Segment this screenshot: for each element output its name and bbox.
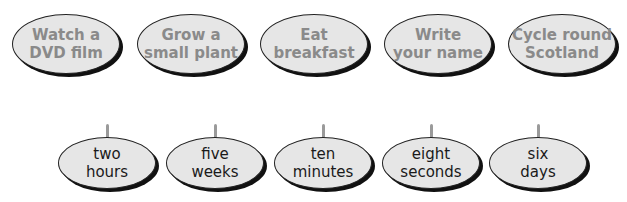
connector-stem[interactable] (430, 124, 433, 138)
activity-label: breakfast (273, 44, 354, 62)
connector-stem[interactable] (214, 124, 217, 138)
activity-oval-watch-dvd[interactable]: Watch a DVD film (12, 14, 120, 74)
duration-label: two (93, 145, 120, 163)
duration-label: seconds (400, 163, 461, 181)
duration-label: six (528, 145, 549, 163)
activity-label: Write (415, 26, 461, 44)
duration-label: weeks (191, 163, 238, 181)
activity-label: Grow a (161, 26, 220, 44)
activity-oval-eat-breakfast[interactable]: Eat breakfast (260, 14, 368, 74)
activity-oval-cycle-scotland[interactable]: Cycle round Scotland (508, 14, 616, 74)
activity-label: Cycle round (512, 26, 612, 44)
duration-label: days (520, 163, 555, 181)
activity-oval-write-name[interactable]: Write your name (384, 14, 492, 74)
connector-stem[interactable] (106, 124, 109, 138)
activity-label: Scotland (525, 44, 599, 62)
duration-label: eight (412, 145, 450, 163)
activity-label: your name (393, 44, 483, 62)
duration-oval-six-days[interactable]: six days (489, 137, 587, 189)
connector-stem[interactable] (322, 124, 325, 138)
activity-label: small plant (144, 44, 238, 62)
activity-label: Watch a (32, 26, 100, 44)
connector-stem[interactable] (537, 124, 540, 138)
duration-oval-ten-minutes[interactable]: ten minutes (274, 137, 372, 189)
duration-oval-eight-seconds[interactable]: eight seconds (382, 137, 480, 189)
activity-oval-grow-plant[interactable]: Grow a small plant (137, 14, 245, 74)
duration-oval-two-hours[interactable]: two hours (58, 137, 156, 189)
duration-label: ten (311, 145, 336, 163)
duration-label: minutes (293, 163, 354, 181)
activity-label: Eat (300, 26, 328, 44)
duration-label: hours (86, 163, 128, 181)
activity-label: DVD film (29, 44, 103, 62)
duration-label: five (201, 145, 229, 163)
duration-oval-five-weeks[interactable]: five weeks (166, 137, 264, 189)
